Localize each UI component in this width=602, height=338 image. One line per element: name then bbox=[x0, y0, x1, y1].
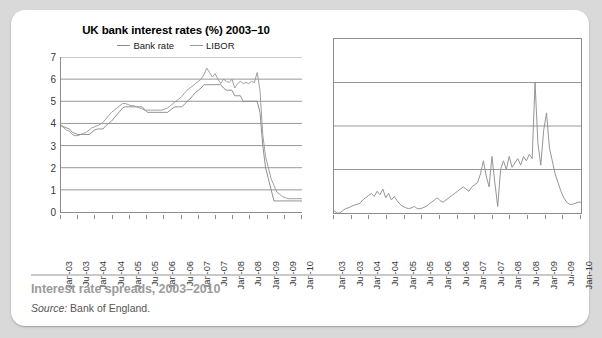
series-line-0 bbox=[61, 85, 302, 201]
x-tick-mark bbox=[215, 215, 216, 219]
x-tick-mark bbox=[249, 215, 250, 219]
source-label: Source: bbox=[31, 302, 67, 314]
x-tick-mark bbox=[112, 215, 113, 219]
x-tick-mark bbox=[580, 215, 581, 219]
y-axis-labels-left: 01234567 bbox=[41, 50, 56, 219]
chart-title-left: UK bank interest rates (%) 2003–10 bbox=[51, 24, 301, 36]
plot-area-left bbox=[60, 57, 302, 213]
x-tick-mark bbox=[545, 215, 546, 219]
x-tick-mark bbox=[198, 215, 199, 219]
x-tick-mark bbox=[333, 215, 334, 219]
x-tick-mark bbox=[94, 215, 95, 219]
legend-entry-libor: LIBOR bbox=[190, 40, 235, 51]
series-line-1 bbox=[61, 68, 302, 199]
x-tick-mark bbox=[439, 215, 440, 219]
x-tick-mark bbox=[267, 215, 268, 219]
x-tick-mark bbox=[60, 215, 61, 219]
x-axis-labels-left: Jan-03Jul-03Jan-04Jul-04Jan-05Jul-05Jan-… bbox=[60, 215, 301, 265]
x-tick-mark bbox=[284, 215, 285, 219]
caption-divider bbox=[31, 274, 571, 276]
x-tick-mark bbox=[474, 215, 475, 219]
source-value: Bank of England. bbox=[70, 302, 150, 314]
chart-svg bbox=[61, 57, 302, 212]
x-tick-mark bbox=[181, 215, 182, 219]
x-tick-mark bbox=[562, 215, 563, 219]
x-tick-mark bbox=[146, 215, 147, 219]
x-tick-mark bbox=[163, 215, 164, 219]
legend-entry-bank-rate: Bank rate bbox=[117, 40, 174, 51]
legend-label-libor: LIBOR bbox=[206, 40, 235, 51]
y-tick-label: 4 bbox=[50, 118, 56, 129]
y-tick-label: 6 bbox=[50, 74, 56, 85]
x-tick-mark bbox=[421, 215, 422, 219]
y-tick-label: 1 bbox=[50, 184, 56, 195]
x-tick-mark bbox=[509, 215, 510, 219]
y-tick-label: 2 bbox=[50, 162, 56, 173]
y-tick-label: 7 bbox=[50, 52, 56, 63]
y-tick-label: 0 bbox=[50, 207, 56, 218]
x-tick-mark bbox=[492, 215, 493, 219]
figure-card: UK bank interest rates (%) 2003–10 Bank … bbox=[11, 10, 589, 326]
figure-source: Source: Bank of England. bbox=[31, 302, 150, 314]
x-tick-mark bbox=[404, 215, 405, 219]
chart-legend: Bank rate LIBOR bbox=[51, 40, 301, 51]
x-tick-mark bbox=[386, 215, 387, 219]
x-tick-mark bbox=[77, 215, 78, 219]
chart-svg bbox=[334, 39, 581, 213]
legend-line-icon-bank-rate bbox=[117, 45, 130, 46]
legend-line-icon-libor bbox=[190, 45, 203, 46]
legend-label-bank-rate: Bank rate bbox=[133, 40, 174, 51]
x-tick-mark bbox=[129, 215, 130, 219]
x-tick-mark bbox=[351, 215, 352, 219]
plot-area-right bbox=[333, 38, 582, 214]
y-tick-label: 5 bbox=[50, 96, 56, 107]
x-tick-mark bbox=[368, 215, 369, 219]
series-line-0 bbox=[334, 83, 581, 214]
x-tick-mark bbox=[301, 215, 302, 219]
x-tick-mark bbox=[527, 215, 528, 219]
x-tick-label: Jan-10 bbox=[584, 261, 594, 289]
x-axis-labels-right: Jan-03Jul-03Jan-04Jul-04Jan-05Jul-05Jan-… bbox=[333, 215, 580, 265]
y-tick-label: 3 bbox=[50, 140, 56, 151]
x-tick-mark bbox=[457, 215, 458, 219]
figure-caption: Interest rate spreads, 2003–2010 bbox=[31, 282, 220, 296]
charts-area: UK bank interest rates (%) 2003–10 Bank … bbox=[11, 10, 589, 262]
x-tick-mark bbox=[232, 215, 233, 219]
